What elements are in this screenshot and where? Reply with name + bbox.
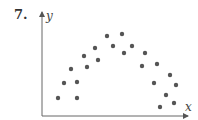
data-point: [75, 96, 79, 100]
data-point: [56, 96, 60, 100]
data-point: [172, 101, 176, 105]
data-point: [93, 46, 97, 50]
data-point: [111, 44, 115, 48]
data-points: [56, 32, 178, 109]
x-axis-label: x: [185, 100, 192, 114]
data-point: [158, 105, 162, 109]
data-point: [69, 67, 73, 71]
data-point: [120, 32, 124, 36]
data-point: [62, 81, 66, 85]
data-point: [75, 80, 79, 84]
data-point: [130, 44, 134, 48]
data-point: [105, 34, 109, 38]
data-point: [82, 54, 86, 58]
data-point: [122, 51, 126, 55]
data-point: [164, 93, 168, 97]
data-point: [96, 58, 100, 62]
data-point: [85, 65, 89, 69]
data-point: [168, 73, 172, 77]
data-point: [155, 62, 159, 66]
data-point: [143, 51, 147, 55]
data-point: [152, 81, 156, 85]
scatter-plot: y x: [0, 0, 198, 120]
data-point: [174, 83, 178, 87]
data-point: [140, 64, 144, 68]
y-axis-label: y: [45, 9, 53, 23]
